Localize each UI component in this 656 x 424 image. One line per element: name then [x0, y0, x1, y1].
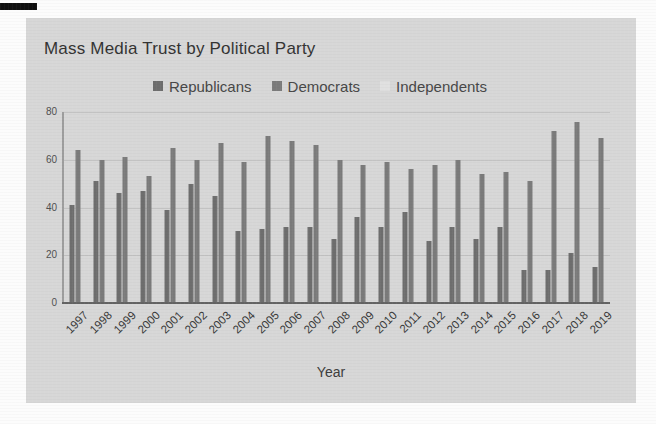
bar-democrats-2003: [218, 143, 223, 303]
bar-group-2002: [188, 112, 199, 303]
bar-republicans-1999: [117, 193, 122, 303]
x-tick-label-2011: 2011: [397, 309, 423, 335]
x-tick-label-2013: 2013: [444, 309, 471, 336]
x-tick-label-2005: 2005: [254, 309, 281, 336]
x-tick-label-2000: 2000: [135, 309, 162, 336]
y-tick-label-20: 20: [31, 250, 57, 260]
bar-democrats-2010: [385, 162, 390, 303]
bar-democrats-2007: [313, 145, 318, 303]
bar-democrats-2012: [432, 165, 437, 303]
x-tick-label-1998: 1998: [88, 309, 115, 336]
bar-democrats-2015: [503, 172, 508, 303]
x-tick-label-2004: 2004: [230, 309, 257, 336]
bar-democrats-2016: [527, 181, 532, 303]
y-tick-label-80: 80: [31, 107, 57, 117]
bar-republicans-1997: [69, 205, 74, 303]
legend-swatch-democrats: [272, 81, 282, 91]
bar-democrats-2005: [266, 136, 271, 303]
bar-group-2012: [426, 112, 437, 303]
bar-democrats-2008: [337, 160, 342, 303]
legend: RepublicansDemocratsIndependents: [26, 77, 614, 95]
bar-group-2018: [569, 112, 580, 303]
bar-group-2011: [402, 112, 413, 303]
bar-group-2014: [474, 112, 485, 303]
bar-republicans-2000: [141, 191, 146, 303]
bar-group-2009: [355, 112, 366, 303]
bar-republicans-2017: [545, 270, 550, 303]
bar-group-2005: [260, 112, 271, 303]
bar-group-1999: [117, 112, 128, 303]
bar-democrats-2006: [289, 141, 294, 303]
bar-group-2010: [379, 112, 390, 303]
chart-title: Mass Media Trust by Political Party: [44, 39, 316, 59]
bar-republicans-2013: [450, 227, 455, 303]
x-axis-line: [62, 302, 610, 304]
bar-republicans-2002: [188, 184, 193, 303]
y-axis-line: [62, 112, 64, 303]
bar-group-2016: [521, 112, 532, 303]
bar-republicans-2001: [165, 210, 170, 303]
bar-republicans-2012: [426, 241, 431, 303]
x-tick-label-2008: 2008: [325, 309, 352, 336]
x-tick-label-2002: 2002: [183, 309, 210, 336]
bar-group-2006: [283, 112, 294, 303]
bar-group-2015: [497, 112, 508, 303]
bar-democrats-2009: [361, 165, 366, 303]
bar-republicans-2004: [236, 231, 241, 303]
bar-republicans-2011: [402, 212, 407, 303]
bar-group-2004: [236, 112, 247, 303]
x-tick-label-2015: 2015: [492, 309, 519, 336]
bar-democrats-1997: [75, 150, 80, 303]
scan-artifact-mark: [0, 3, 37, 10]
y-tick-label-60: 60: [31, 155, 57, 165]
y-tick-label-0: 0: [31, 298, 57, 308]
bar-democrats-2014: [480, 174, 485, 303]
legend-item-republicans: Republicans: [153, 78, 252, 95]
bar-group-2007: [307, 112, 318, 303]
bar-republicans-2018: [569, 253, 574, 303]
bar-group-2000: [141, 112, 152, 303]
bar-group-2001: [165, 112, 176, 303]
bar-group-2013: [450, 112, 461, 303]
legend-swatch-independents: [380, 81, 390, 91]
legend-swatch-republicans: [153, 81, 163, 91]
bar-republicans-2010: [379, 227, 384, 303]
bar-group-1998: [93, 112, 104, 303]
x-tick-label-2016: 2016: [516, 309, 543, 336]
bar-group-1997: [69, 112, 80, 303]
x-axis-title: Year: [26, 364, 636, 380]
legend-item-democrats: Democrats: [272, 78, 361, 95]
x-tick-label-2001: 2001: [159, 309, 186, 336]
x-tick-label-2003: 2003: [206, 309, 233, 336]
x-tick-label-1997: 1997: [64, 309, 91, 336]
bar-republicans-2014: [474, 239, 479, 303]
legend-label-democrats: Democrats: [288, 78, 361, 95]
bar-democrats-2018: [575, 122, 580, 303]
plot-area: 0204060801997199819992000200120022003200…: [63, 112, 610, 303]
bar-democrats-1998: [99, 160, 104, 303]
bar-republicans-2015: [497, 227, 502, 303]
x-tick-label-2014: 2014: [468, 309, 495, 336]
bar-republicans-2016: [521, 270, 526, 303]
x-tick-label-2019: 2019: [587, 309, 614, 336]
bar-group-2019: [593, 112, 604, 303]
x-tick-label-2010: 2010: [373, 309, 400, 336]
bar-group-2003: [212, 112, 223, 303]
bar-democrats-2017: [551, 131, 556, 303]
chart-panel: Mass Media Trust by Political Party Repu…: [26, 18, 636, 403]
bar-republicans-2005: [260, 229, 265, 303]
bar-democrats-2001: [171, 148, 176, 303]
bar-democrats-2011: [408, 169, 413, 303]
bar-democrats-2002: [194, 160, 199, 303]
bar-republicans-2003: [212, 196, 217, 303]
x-tick-label-2006: 2006: [278, 309, 305, 336]
bar-republicans-1998: [93, 181, 98, 303]
bar-republicans-2007: [307, 227, 312, 303]
bar-democrats-2000: [147, 176, 152, 303]
x-tick-label-2009: 2009: [349, 309, 376, 336]
y-tick-label-40: 40: [31, 203, 57, 213]
x-tick-label-2018: 2018: [563, 309, 590, 336]
legend-item-independents: Independents: [380, 78, 487, 95]
x-tick-label-2017: 2017: [539, 309, 566, 336]
bar-republicans-2009: [355, 217, 360, 303]
